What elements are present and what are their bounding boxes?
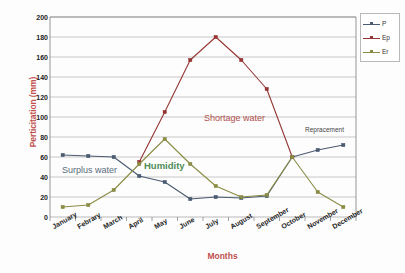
data-point-p <box>87 154 90 157</box>
data-point-er <box>342 205 345 208</box>
annotation-humidity: Humidity <box>144 161 185 171</box>
data-point-ep <box>265 87 268 90</box>
data-point-er <box>138 162 141 165</box>
data-point-er <box>265 193 268 196</box>
plot-area <box>0 0 405 273</box>
legend-label-p: P <box>382 21 386 28</box>
data-point-ep <box>189 58 192 61</box>
data-point-p <box>189 197 192 200</box>
data-point-ep <box>214 35 217 38</box>
data-point-er <box>163 137 166 140</box>
data-point-er <box>240 195 243 198</box>
series-line-ep <box>139 37 292 162</box>
chart-legend[interactable]: P Ep Er <box>360 13 400 62</box>
data-point-p <box>342 143 345 146</box>
legend-item-ep[interactable]: Ep <box>363 31 397 45</box>
data-point-p <box>61 153 64 156</box>
data-point-p <box>214 195 217 198</box>
data-point-er <box>214 184 217 187</box>
line-chart: Perticitation (mm) 200180160140120100806… <box>0 0 405 273</box>
data-point-er <box>316 190 319 193</box>
data-point-p <box>316 148 319 151</box>
data-point-er <box>87 203 90 206</box>
data-point-p <box>138 174 141 177</box>
annotation-shortage-water: Shortage water <box>204 114 265 123</box>
legend-item-er[interactable]: Er <box>363 45 397 59</box>
data-point-ep <box>240 58 243 61</box>
x-axis-title: Months <box>0 251 405 261</box>
legend-swatch-ep <box>363 34 380 43</box>
data-point-p <box>112 155 115 158</box>
data-point-p <box>163 180 166 183</box>
legend-swatch-p <box>363 20 380 29</box>
legend-label-er: Er <box>382 49 389 56</box>
legend-swatch-er <box>363 48 380 57</box>
data-point-er <box>112 188 115 191</box>
data-point-er <box>291 155 294 158</box>
legend-label-ep: Ep <box>382 35 390 42</box>
data-point-ep <box>163 110 166 113</box>
annotation-surplus-water: Surplus water <box>62 166 117 175</box>
annotation-repracement: Repracement <box>305 127 344 134</box>
data-point-er <box>61 205 64 208</box>
data-point-er <box>189 162 192 165</box>
legend-item-p[interactable]: P <box>363 17 397 31</box>
